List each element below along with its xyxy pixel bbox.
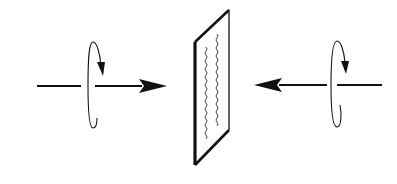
left-arrowhead-icon (139, 79, 167, 93)
diagram-canvas (0, 0, 397, 184)
right-beam (254, 41, 382, 127)
right-arrowhead-icon (254, 78, 282, 92)
plate (195, 10, 229, 165)
left-beam (37, 42, 167, 128)
